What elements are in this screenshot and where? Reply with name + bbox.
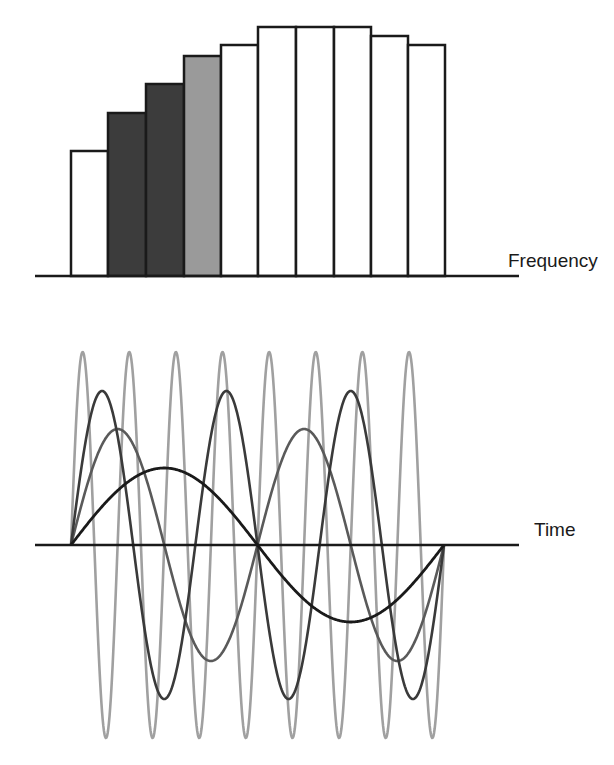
fourier-diagram: Frequency Time — [0, 0, 614, 765]
spectrum-bar — [296, 27, 334, 276]
frequency-axis-label: Frequency — [508, 250, 598, 271]
time-axis-label: Time — [534, 519, 576, 540]
spectrum-bar — [108, 113, 146, 276]
spectrum-bar — [334, 27, 371, 276]
spectrum-bar — [146, 84, 184, 276]
spectrum-bar — [221, 45, 258, 276]
spectrum-bar — [71, 151, 108, 276]
spectrum-bar — [184, 56, 221, 276]
frequency-spectrum — [71, 27, 445, 276]
spectrum-bar — [258, 27, 296, 276]
spectrum-bar — [371, 36, 408, 276]
spectrum-bar — [408, 45, 445, 276]
